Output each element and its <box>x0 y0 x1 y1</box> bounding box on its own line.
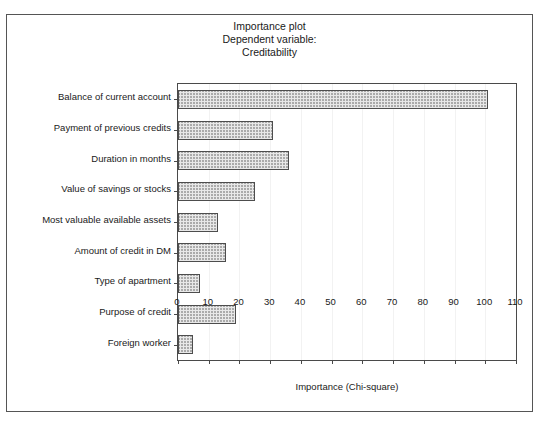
bar <box>178 243 226 262</box>
x-axis-tick <box>485 360 486 364</box>
y-axis-category-label: Foreign worker <box>7 337 171 348</box>
x-axis-tick <box>270 360 271 364</box>
y-axis-tick <box>174 283 178 284</box>
figure-frame: Importance plot Dependent variable: Cred… <box>6 14 533 412</box>
x-axis-tick-label: 50 <box>325 296 336 307</box>
bar <box>178 213 218 232</box>
y-axis-tick <box>174 130 178 131</box>
y-axis-category-label: Purpose of credit <box>7 306 171 317</box>
x-axis-tick <box>516 360 517 364</box>
x-axis-tick-label: 90 <box>448 296 459 307</box>
y-axis-category-label: Most valuable available assets <box>7 214 171 225</box>
y-axis-tick <box>174 314 178 315</box>
x-axis-tick-label: 70 <box>387 296 398 307</box>
x-axis-tick <box>301 360 302 364</box>
gridline <box>485 84 486 360</box>
chart-title: Importance plot Dependent variable: Cred… <box>7 20 532 59</box>
y-axis-tick <box>174 99 178 100</box>
gridline <box>424 84 425 360</box>
bar <box>178 274 200 293</box>
x-axis-tick <box>393 360 394 364</box>
x-axis-tick-label: 100 <box>476 296 492 307</box>
x-axis-tick-label: 60 <box>356 296 367 307</box>
x-axis-tick-label: 40 <box>295 296 306 307</box>
x-axis-tick-label: 30 <box>264 296 275 307</box>
x-axis-title: Importance (Chi-square) <box>177 381 517 392</box>
bar <box>178 121 273 140</box>
y-axis-category-label: Payment of previous credits <box>7 122 171 133</box>
chart-title-line-3: Creditability <box>7 46 532 59</box>
y-axis-category-label: Balance of current account <box>7 91 171 102</box>
x-axis-tick <box>455 360 456 364</box>
y-axis-category-label: Amount of credit in DM <box>7 245 171 256</box>
y-axis-tick <box>174 253 178 254</box>
y-axis-category-label: Duration in months <box>7 153 171 164</box>
y-axis-tick <box>174 191 178 192</box>
gridline <box>332 84 333 360</box>
y-axis-category-label: Value of savings or stocks <box>7 183 171 194</box>
bar <box>178 151 289 170</box>
x-axis-tick <box>424 360 425 364</box>
x-axis-tick-label: 80 <box>418 296 429 307</box>
x-axis-tick <box>178 360 179 364</box>
y-axis-tick <box>174 222 178 223</box>
y-axis-tick <box>174 345 178 346</box>
chart-title-line-1: Importance plot <box>7 20 532 33</box>
plot-area <box>177 83 517 361</box>
x-axis-tick-label: 10 <box>202 296 213 307</box>
gridline <box>393 84 394 360</box>
x-axis-tick-label: 0 <box>174 296 179 307</box>
chart-title-line-2: Dependent variable: <box>7 33 532 46</box>
gridline <box>362 84 363 360</box>
gridline <box>301 84 302 360</box>
bar <box>178 90 488 109</box>
x-axis-tick-label: 110 <box>507 296 522 307</box>
x-axis-tick-label: 20 <box>233 296 244 307</box>
y-axis-category-label: Type of apartment <box>7 275 171 286</box>
x-axis-tick <box>239 360 240 364</box>
x-axis-tick <box>332 360 333 364</box>
bar <box>178 335 193 354</box>
gridline <box>455 84 456 360</box>
y-axis-labels: Balance of current accountPayment of pre… <box>7 83 171 359</box>
x-axis-tick <box>362 360 363 364</box>
bar <box>178 305 236 324</box>
y-axis-tick <box>174 161 178 162</box>
bar <box>178 182 255 201</box>
x-axis-tick <box>209 360 210 364</box>
